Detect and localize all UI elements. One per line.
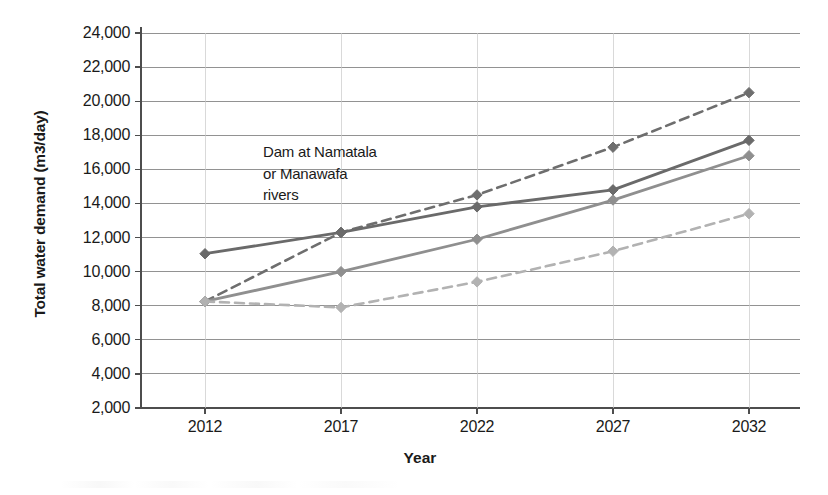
data-point [744,87,754,97]
axis-lines [141,27,800,408]
data-point [744,135,754,145]
line-chart-figure: Total water demand (m3/day) 24,00022,000… [0,0,828,495]
data-point [744,151,754,161]
axis-ticks [135,33,749,414]
data-point [744,208,754,218]
scan-artifact [60,481,400,488]
data-point [608,185,618,195]
data-point [336,266,346,276]
data-point [608,246,618,256]
data-point [608,142,618,152]
data-point [472,234,482,244]
data-point [472,190,482,200]
data-point [472,277,482,287]
data-point [200,249,210,259]
data-point [336,302,346,312]
gridlines [141,33,800,408]
data-point [200,296,210,306]
data-point [336,227,346,237]
plot-area [0,0,828,495]
category-gridlines [205,33,749,408]
dam-annotation-label: Dam at Namatala or Manawafa rivers [263,141,377,206]
